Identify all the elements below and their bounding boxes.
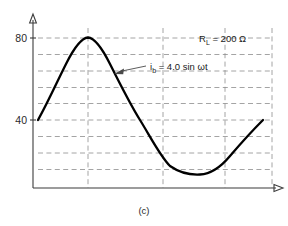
- sine-curve: [38, 38, 263, 175]
- figure-container: 80 40 ib = 4.0 sin ωt RL = 200 Ω (c): [0, 0, 288, 226]
- y-tick-label-40: 40: [15, 114, 27, 126]
- resistance-unit: Ω: [239, 33, 246, 44]
- current-equation-text: ib = 4.0 sin ωt: [150, 61, 208, 74]
- figure-caption: (c): [138, 205, 149, 216]
- resistance-value: = 200: [210, 33, 239, 44]
- current-expression: = 4.0 sin ωt: [156, 61, 208, 72]
- y-tick-label-80: 80: [15, 32, 27, 44]
- load-resistance-text: RL = 200 Ω: [199, 33, 246, 46]
- current-equation-annotation: ib = 4.0 sin ωt: [150, 61, 208, 74]
- vertical-gridlines: [88, 28, 272, 188]
- leader-line: [122, 66, 146, 71]
- current-equation-leader: [114, 66, 146, 74]
- chart-svg: 80 40 ib = 4.0 sin ωt RL = 200 Ω (c): [0, 0, 288, 226]
- load-resistance-annotation: RL = 200 Ω: [199, 33, 246, 46]
